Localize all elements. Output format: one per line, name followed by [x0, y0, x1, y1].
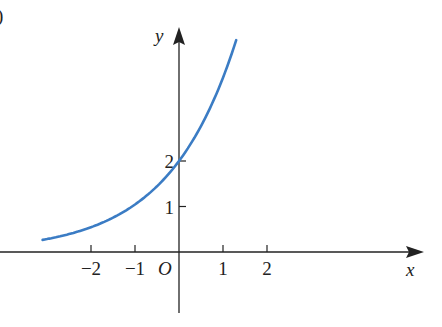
origin-label: O — [158, 258, 172, 279]
y-tick-label: 1 — [165, 197, 175, 218]
x-tick-label: 2 — [262, 258, 272, 279]
axes — [0, 27, 424, 313]
chart: −2−11212 y x O ) — [0, 0, 442, 327]
x-tick-label: −2 — [81, 258, 101, 279]
x-tick-label: 1 — [218, 258, 228, 279]
ticks: −2−11212 — [81, 151, 272, 279]
x-axis-label: x — [405, 259, 415, 280]
curve-line — [43, 40, 237, 240]
y-axis-label: y — [153, 25, 164, 46]
x-tick-label: −1 — [125, 258, 145, 279]
figure-label: ) — [0, 5, 3, 27]
